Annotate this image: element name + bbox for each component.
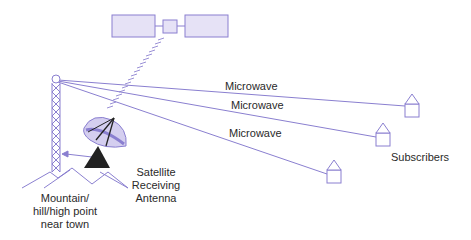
tower-icon [52,75,60,172]
subscribers-label: Subscribers [391,151,449,164]
tower-label-line: hill/high point [22,205,108,218]
mountain-icon [22,168,128,188]
microwave-label-3: Microwave [229,127,282,140]
antenna-label-line: Receiving [130,179,182,192]
microwave-label-2: Microwave [231,99,284,112]
tower-label-line: Mountain/ [22,192,108,205]
feed-arrow-icon [62,151,92,157]
satellite-signal-icon [107,38,164,108]
house-icon [376,123,390,146]
tower-location-label: Mountain/ hill/high point near town [22,192,108,231]
house-icon [327,160,341,183]
satellite-icon [112,15,228,37]
tower-label-line: near town [22,218,108,231]
antenna-label-line: Satellite [130,166,182,179]
antenna-label: Satellite Receiving Antenna [130,166,182,205]
antenna-label-line: Antenna [130,192,182,205]
dish-antenna-icon [84,117,127,168]
microwave-label-1: Microwave [225,80,278,93]
house-icon [405,94,419,117]
